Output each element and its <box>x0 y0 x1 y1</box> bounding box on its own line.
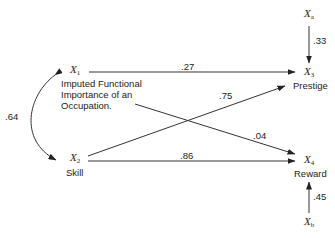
arrow-x1-x2-correlation <box>31 75 56 160</box>
diagram-arrows <box>0 0 335 238</box>
node-x1-label: Imputed Functional Importance of an Occu… <box>61 78 142 111</box>
node-x3-symbol: X3 <box>304 66 314 81</box>
coef-x1-x4: .04 <box>253 130 266 141</box>
node-xa-symbol: Xa <box>304 8 314 23</box>
node-x4-symbol: X4 <box>304 154 314 169</box>
node-x1-symbol: X1 <box>70 64 80 79</box>
coef-x1-x2: .64 <box>5 111 18 122</box>
node-x4-label: Reward <box>294 168 327 179</box>
path-diagram: X1 Imputed Functional Importance of an O… <box>0 0 335 238</box>
arrow-x1-x4 <box>135 104 295 154</box>
coef-x2-x4: .86 <box>180 150 193 161</box>
node-x2-symbol: X2 <box>70 152 80 167</box>
node-x2-label: Skill <box>66 167 83 178</box>
coef-x2-x3: .75 <box>219 90 232 101</box>
node-x3-label: Prestige <box>293 80 328 91</box>
coef-xb-x4: .45 <box>313 191 326 202</box>
node-xb-symbol: Xb <box>304 216 314 231</box>
coef-xa-x3: .33 <box>313 35 326 46</box>
coef-x1-x3: .27 <box>181 61 194 72</box>
